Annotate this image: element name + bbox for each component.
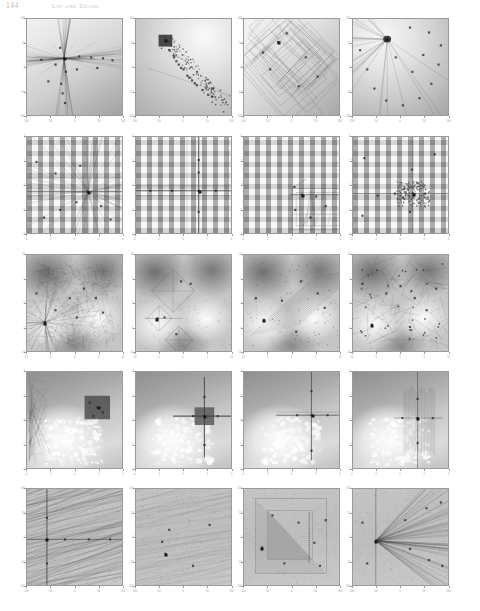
panel-trajectory-overlay-10 — [136, 255, 231, 351]
x-axis-20: -100-50050100 — [352, 586, 449, 595]
x-tick-mark — [449, 116, 450, 118]
x-tick-label: -50 — [265, 120, 269, 123]
y-tick-label: -2 — [240, 208, 242, 211]
x-axis-15: -4-2024 — [243, 469, 340, 478]
y-axis-1: 100500-50-100 — [13, 18, 26, 116]
x-tick-mark — [376, 352, 377, 354]
figure-panel-7: -4-2024420-2-4 — [243, 136, 340, 234]
y-tick-label: 0 — [24, 419, 25, 422]
panel-plot-area-13 — [26, 371, 123, 469]
y-tick-label: -2 — [240, 443, 242, 446]
x-axis-2: -100-50050100 — [135, 116, 232, 125]
x-tick-label: -100 — [349, 590, 354, 593]
y-tick-label: 4 — [132, 370, 133, 373]
figure-panel-16: -4-2024420-2-4 — [352, 371, 449, 469]
x-tick-label: -100 — [240, 590, 245, 593]
y-axis-2: 100500-50-100 — [122, 18, 135, 116]
y-tick-label: -50 — [238, 90, 242, 93]
x-tick-mark — [400, 116, 401, 118]
y-tick-label: -100 — [20, 585, 25, 588]
y-tick-label: 2 — [241, 394, 242, 397]
figure-page: 144 Lin and Zhang -100-50050100100500-50… — [0, 0, 480, 611]
x-axis-16: -4-2024 — [352, 469, 449, 478]
figure-panel-5: -4-2024420-2-4 — [26, 136, 123, 234]
x-tick-mark — [207, 469, 208, 471]
x-tick-label: 0 — [182, 356, 183, 359]
optimum-marker-12 — [370, 325, 373, 328]
y-tick-label: 5 — [24, 277, 25, 280]
figure-panel-12: -10-505101050-5-10 — [352, 254, 449, 352]
x-tick-mark — [99, 586, 100, 588]
x-tick-label: 50 — [314, 120, 317, 123]
x-tick-label: 4 — [339, 473, 340, 476]
x-tick-label: 2 — [207, 473, 208, 476]
x-tick-mark — [123, 116, 124, 118]
panel-plot-area-12 — [352, 254, 449, 352]
x-tick-mark — [50, 469, 51, 471]
optimum-marker-7 — [302, 194, 305, 197]
x-tick-label: -4 — [133, 473, 135, 476]
x-tick-mark — [207, 352, 208, 354]
x-tick-label: 2 — [424, 238, 425, 241]
y-tick-label: -50 — [347, 90, 351, 93]
x-tick-label: 5 — [315, 356, 316, 359]
y-tick-label: 4 — [24, 370, 25, 373]
y-tick-label: 0 — [241, 66, 242, 69]
x-tick-label: 2 — [98, 473, 99, 476]
panel-plot-area-6 — [135, 136, 232, 234]
x-tick-label: -4 — [25, 238, 27, 241]
panel-trajectory-overlay-14 — [136, 372, 231, 468]
x-axis-3: -100-50050100 — [243, 116, 340, 125]
x-tick-label: -10 — [241, 356, 245, 359]
y-tick-label: 0 — [132, 302, 133, 305]
optimum-marker-11 — [263, 320, 266, 323]
panel-trajectory-overlay-7 — [244, 137, 339, 233]
y-tick-label: 50 — [348, 511, 351, 514]
x-tick-label: 4 — [231, 473, 232, 476]
x-tick-mark — [183, 586, 184, 588]
y-tick-label: 0 — [24, 302, 25, 305]
x-axis-18: -100-50050100 — [135, 586, 232, 595]
optimum-marker-2 — [164, 40, 167, 43]
y-tick-label: 0 — [349, 184, 350, 187]
x-tick-label: -50 — [157, 120, 161, 123]
x-tick-label: 0 — [74, 120, 75, 123]
x-tick-label: -100 — [23, 590, 28, 593]
y-tick-label: 50 — [22, 41, 25, 44]
x-tick-mark — [340, 116, 341, 118]
x-tick-label: -100 — [240, 120, 245, 123]
x-tick-mark — [292, 586, 293, 588]
figure-panel-18: -100-50050100100500-50-100 — [135, 488, 232, 586]
optimum-marker-8 — [412, 193, 415, 196]
x-tick-mark — [232, 586, 233, 588]
x-tick-label: 100 — [338, 590, 342, 593]
y-tick-label: 0 — [24, 536, 25, 539]
panel-trajectory-overlay-8 — [353, 137, 448, 233]
y-tick-label: 50 — [239, 511, 242, 514]
x-tick-label: 0 — [182, 238, 183, 241]
x-tick-mark — [135, 116, 136, 118]
y-tick-label: -2 — [23, 443, 25, 446]
x-tick-label: -4 — [25, 473, 27, 476]
y-axis-9: 1050-5-10 — [13, 254, 26, 352]
x-tick-label: 0 — [74, 473, 75, 476]
x-tick-mark — [400, 352, 401, 354]
x-tick-label: 0 — [399, 120, 400, 123]
y-tick-label: -100 — [128, 115, 133, 118]
y-tick-label: 0 — [349, 419, 350, 422]
figure-panel-19: -100-50050100100500-50-100 — [243, 488, 340, 586]
x-tick-mark — [316, 586, 317, 588]
y-tick-label: -5 — [348, 326, 350, 329]
x-tick-mark — [75, 586, 76, 588]
panel-trajectory-overlay-2 — [136, 19, 231, 115]
x-tick-mark — [400, 469, 401, 471]
y-tick-label: 4 — [132, 135, 133, 138]
panel-trajectory-overlay-5 — [27, 137, 122, 233]
figure-panel-6: -4-2024420-2-4 — [135, 136, 232, 234]
y-axis-12: 1050-5-10 — [339, 254, 352, 352]
y-tick-label: 4 — [241, 135, 242, 138]
x-tick-label: 4 — [231, 238, 232, 241]
x-tick-mark — [316, 116, 317, 118]
x-tick-label: 2 — [98, 238, 99, 241]
y-tick-label: 100 — [238, 17, 242, 20]
